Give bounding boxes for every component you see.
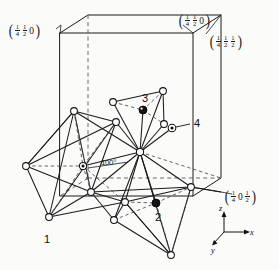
paren-close: )	[36, 22, 40, 39]
coord-term-zero: 0	[238, 192, 243, 202]
fraction-one-half: 1 2	[23, 24, 28, 37]
axis-z-arrowhead	[222, 211, 227, 217]
paren-close: )	[237, 33, 241, 50]
axis-triad	[214, 214, 247, 243]
poly-right-e1	[91, 192, 125, 202]
poly-right-h1	[125, 202, 156, 203]
axis-arrowheads	[212, 211, 250, 246]
poly-right-e5	[125, 202, 171, 255]
poly-left-e2	[49, 111, 74, 217]
poly-left-h4	[49, 166, 83, 217]
fraction-denominator: 4	[216, 41, 221, 48]
paren-close: )	[252, 188, 256, 205]
vertex-open-circle	[160, 88, 167, 95]
atom-label-1: 1	[44, 233, 50, 245]
connector-hub-to-corner	[140, 152, 221, 178]
vertex-open-circle	[110, 99, 117, 106]
fraction-denominator: 4	[185, 20, 190, 27]
poly-centre-h1	[113, 102, 143, 110]
paren-open: (	[225, 188, 229, 205]
vertex-open-circle	[23, 163, 30, 170]
fraction-one-quarter: 1 4	[15, 24, 20, 37]
poly-left-e1	[26, 111, 74, 166]
vertex-dotted-circle-core	[82, 165, 85, 168]
angle-annotation-100deg: 100°	[101, 158, 116, 167]
fraction-denominator: 2	[224, 41, 229, 48]
coord-term: 1 2	[192, 14, 198, 27]
atom-label-2: 2	[155, 211, 161, 223]
poly-centre-e9	[140, 152, 191, 187]
vertex-open-circle	[122, 199, 129, 206]
atom-4-leader-line	[176, 124, 190, 127]
vertex-open-circle	[46, 214, 53, 221]
paren-open: (	[9, 22, 13, 39]
fraction-denominator: 4	[15, 30, 20, 37]
coord-term: 1 2	[223, 35, 229, 48]
atom-label-4: 4	[194, 117, 200, 129]
fraction-one-half: 1 2	[224, 35, 229, 48]
coord-term: 1 4	[216, 35, 222, 48]
poly-centre-e7	[125, 152, 140, 202]
axis-label-z: z	[219, 203, 222, 213]
vertex-open-circle	[111, 217, 118, 224]
fraction-denominator: 4	[231, 196, 236, 203]
poly-right-h4	[114, 203, 156, 220]
atom-label-3: 3	[142, 92, 148, 104]
coord-label-quarter-zero-half: ( 1 4 0 1 2 )	[224, 188, 257, 205]
fraction-denominator: 2	[231, 41, 236, 48]
coord-term: 1 2	[230, 35, 236, 48]
poly-centre-e1	[113, 102, 140, 152]
atom-4-marker-core	[170, 126, 173, 129]
leader-top-left	[56, 25, 61, 34]
poly-right-e8	[49, 202, 125, 217]
atom-3-marker	[139, 106, 147, 114]
paren-open: (	[179, 12, 183, 29]
fraction-denominator: 2	[245, 196, 250, 203]
vertex-open-circle	[113, 119, 120, 126]
connector-dashed-right	[140, 152, 221, 178]
crystal-structure-figure: ( 1 4 1 2 0 ) ( 1 4 1 2	[0, 0, 279, 270]
coord-term: 1 4	[231, 190, 237, 203]
atom-3-highlight	[141, 108, 143, 110]
fraction-one-quarter: 1 4	[216, 35, 221, 48]
fraction-denominator: 2	[23, 30, 28, 37]
atom-4-leader	[176, 124, 190, 127]
coord-label-quarter-half-zero: ( 1 4 1 2 0 )	[8, 22, 41, 39]
axis-label-x: x	[250, 227, 254, 237]
coord-term: 1 2	[245, 190, 251, 203]
vertex-open-circle	[168, 252, 175, 259]
polyhedron-right	[49, 187, 221, 255]
axis-label-y: y	[211, 245, 215, 255]
polyhedron-right-hidden	[83, 166, 191, 255]
fraction-one-half: 1 2	[231, 35, 236, 48]
poly-centre-e4	[116, 122, 140, 152]
coord-term: 1 4	[185, 14, 191, 27]
fraction-one-quarter: 1 4	[185, 14, 190, 27]
coord-term: 1 2	[22, 24, 28, 37]
axis-y-line	[214, 232, 224, 243]
coord-label-quarter-half-zero-2: ( 1 4 1 2 0 )	[178, 12, 211, 29]
paren-close: )	[206, 12, 210, 29]
fraction-one-half: 1 2	[193, 14, 198, 27]
coord-term-zero: 0	[29, 26, 34, 36]
fraction-one-half: 1 2	[245, 190, 250, 203]
coord-term-zero: 0	[199, 16, 204, 26]
coord-label-quarter-half-half: ( 1 4 1 2 1 2 )	[209, 33, 243, 50]
poly-right-h2	[156, 187, 191, 203]
vertex-open-circle	[71, 108, 78, 115]
vertex-open-circle	[161, 121, 168, 128]
fraction-one-quarter: 1 4	[231, 190, 236, 203]
vertex-central-hub	[136, 148, 143, 155]
poly-right-e7	[91, 187, 191, 192]
fraction-denominator: 2	[193, 20, 198, 27]
coord-term: 1 4	[15, 24, 21, 37]
paren-open: (	[210, 33, 214, 50]
vertex-open-circle	[88, 189, 95, 196]
vertex-open-circle	[188, 184, 195, 191]
atom-2-marker	[152, 199, 160, 207]
